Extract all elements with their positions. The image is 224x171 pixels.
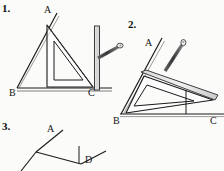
figure-3-group [21,130,106,171]
figure-2-pencil [165,40,186,72]
diagram-svg [0,0,224,171]
figure-2-label-b: B [113,116,120,126]
figure-1-pencil [98,43,123,58]
figure-2-baseline [120,114,224,117]
figure-1-group [17,13,123,91]
figure-1-set-square [47,25,93,87]
worksheet-canvas: 1. A B C 2. A B C 3. A D [0,0,224,171]
figure-2-label-c: C [210,116,217,126]
figure-3-ray-down [21,152,36,171]
figure-2-label-a: A [145,38,152,48]
figure-2-group [120,38,224,117]
figure-1-number: 1. [2,3,10,14]
figure-1-label-a: A [44,5,51,15]
figure-3-number: 3. [2,121,10,132]
figure-1-label-b: B [9,88,16,98]
figure-3-label-d: D [85,155,92,165]
figure-3-label-a: A [47,124,54,134]
figure-1-label-c: C [88,88,95,98]
figure-2-number: 2. [128,19,136,30]
figure-3-ray-to-d [36,152,81,164]
